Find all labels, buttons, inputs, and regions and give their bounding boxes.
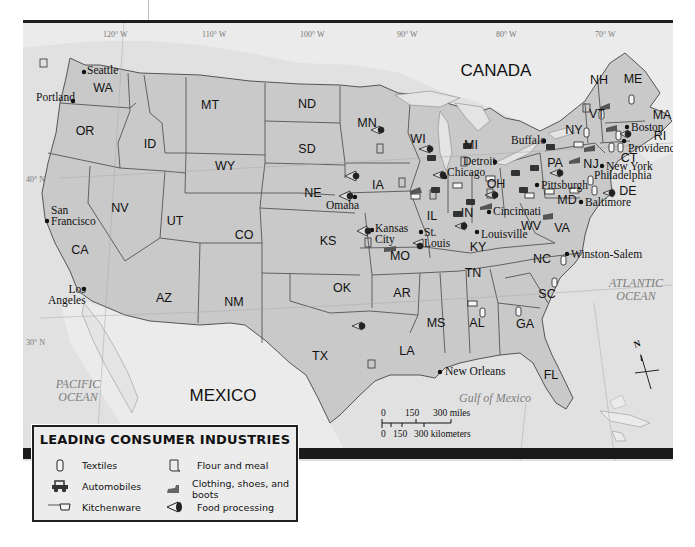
legend-item-food-processing: Food processing — [161, 499, 274, 515]
legend-box: LEADING CONSUMER INDUSTRIES Textiles Aut… — [32, 425, 298, 522]
state-label: PA — [547, 156, 563, 170]
food-processing-icon — [161, 499, 189, 515]
longitude-label: 110° W — [202, 30, 226, 39]
state-label: VA — [554, 221, 570, 235]
state-label: MN — [357, 116, 376, 130]
state-label: NM — [224, 295, 243, 309]
legend-title: LEADING CONSUMER INDUSTRIES — [34, 432, 296, 447]
city-label-baltimore: Baltimore — [585, 197, 631, 208]
scale-bar: 0 150 300 miles 0 150 300 kilometers — [381, 408, 491, 442]
longitude-label: 90° W — [397, 30, 418, 39]
longitude-label: 120° W — [103, 30, 128, 39]
state-label: NE — [304, 186, 321, 200]
country-label-canada: CANADA — [461, 61, 532, 81]
state-label: IA — [372, 178, 384, 192]
state-label: OH — [487, 177, 506, 191]
frame-tick-line — [148, 0, 149, 21]
state-label: KS — [320, 234, 337, 248]
country-label-mexico: MEXICO — [189, 386, 256, 406]
scale-km-150: 150 — [393, 429, 407, 439]
scale-km-0: 0 — [381, 429, 386, 439]
water-label-atlantic: ATLANTICOCEAN — [609, 277, 663, 303]
state-label: MS — [427, 316, 446, 330]
clothing-shoes-boots-icon — [161, 481, 184, 497]
state-label: TX — [312, 349, 328, 363]
legend-item-textiles: Textiles — [46, 457, 117, 473]
legend-item-kitchenware: Kitchenware — [46, 499, 141, 515]
state-label: ND — [298, 97, 316, 111]
automobiles-icon — [46, 478, 74, 494]
legend-label: Automobiles — [82, 481, 141, 492]
longitude-label: 100° W — [300, 30, 325, 39]
kitchenware-icon — [46, 499, 74, 515]
legend-item-clothing: Clothing, shoes, and boots — [161, 478, 296, 500]
state-label: CA — [71, 243, 88, 257]
scale-km-300: 300 kilometers — [414, 429, 471, 439]
state-label: NY — [565, 123, 582, 137]
state-label: OR — [76, 124, 95, 138]
city-label-kansas-city: KansasCity — [375, 223, 408, 245]
city-label-new-york: New York — [606, 161, 653, 172]
state-label: IL — [427, 209, 437, 223]
scale-miles-300: 300 miles — [433, 408, 470, 418]
state-label: NC — [533, 252, 551, 266]
state-label: LA — [399, 344, 414, 358]
water-label-pacific: PACIFICOCEAN — [56, 378, 100, 404]
map-frame: 120° W 110° W 100° W 90° W 80° W 70° W 4… — [23, 20, 673, 461]
textiles-icon — [46, 457, 74, 473]
city-label-cincinnati: Cincinnati — [493, 206, 541, 217]
state-label: WA — [93, 81, 113, 95]
state-label: TN — [465, 266, 482, 280]
state-label: WI — [410, 132, 425, 146]
state-label: ID — [144, 137, 157, 151]
legend-item-automobiles: Automobiles — [46, 478, 141, 494]
state-label: AZ — [156, 291, 172, 305]
city-label-providence: Providence — [628, 143, 673, 154]
city-label-chicago: Chicago — [447, 167, 485, 178]
flour-meal-icon — [161, 457, 189, 473]
state-label: IN — [461, 206, 474, 220]
state-label: AR — [393, 286, 410, 300]
state-label: ME — [624, 72, 643, 86]
legend-item-flour-meal: Flour and meal — [161, 457, 268, 473]
state-label: MD — [557, 193, 576, 207]
state-label: MI — [464, 138, 478, 152]
state-label: SC — [538, 287, 555, 301]
state-label: UT — [167, 214, 184, 228]
state-label: KY — [470, 240, 487, 254]
legend-label: Clothing, shoes, and boots — [192, 478, 296, 500]
city-label-buffalo: Buffalo — [511, 135, 546, 146]
water-label-gulf: Gulf of Mexico — [459, 392, 531, 405]
state-label: OK — [333, 281, 351, 295]
latitude-label: 30° N — [26, 338, 45, 347]
city-label-san-francisco: SanFrancisco — [51, 205, 96, 227]
scale-miles-150: 150 — [405, 408, 419, 418]
city-label-los-angeles: LosAngeles — [48, 284, 86, 306]
city-label-detroit: Detroit — [463, 156, 496, 167]
state-label: NV — [111, 201, 128, 215]
city-label-winston-salem: Winston-Salem — [571, 249, 642, 260]
city-label-omaha: Omaha — [326, 200, 359, 211]
city-label-boston: Boston — [631, 122, 664, 133]
legend-label: Textiles — [82, 460, 117, 471]
latitude-label: 40° N — [26, 175, 45, 184]
state-label: NH — [590, 73, 608, 87]
state-label: CO — [235, 228, 254, 242]
longitude-label: 80° W — [496, 30, 517, 39]
city-label-louisville: Louisville — [481, 229, 528, 240]
state-label: MO — [390, 249, 410, 263]
legend-label: Flour and meal — [197, 460, 268, 471]
state-label: MT — [201, 98, 219, 112]
city-label-new-orleans: New Orleans — [445, 366, 505, 377]
city-label-st-louis: St.Louis — [424, 227, 450, 249]
map-canvas — [23, 23, 673, 461]
state-label: SD — [298, 142, 315, 156]
city-label-pittsburgh: Pittsburgh — [541, 180, 588, 191]
scale-miles-0: 0 — [381, 408, 386, 418]
city-label-portland: Portland — [36, 92, 75, 103]
state-label: VT — [589, 107, 605, 121]
state-label: GA — [516, 317, 534, 331]
state-label: MA — [653, 108, 672, 122]
legend-label: Kitchenware — [82, 502, 141, 513]
scale-ruler-icon — [381, 419, 453, 429]
